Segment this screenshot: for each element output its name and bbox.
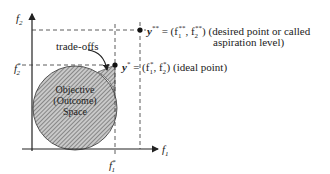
objective-space-label: Objective (Outcome) Space [52,84,98,117]
tradeoff-arrow [88,50,107,70]
desired-point [137,27,142,32]
ideal-point [112,62,117,67]
desired-point-label-line2: aspiration level) [213,36,284,48]
y-tick-label: f*2 [14,59,20,79]
x-tick-label: f*1 [109,156,115,174]
ideal-point-label: y* = (f1*, f2*) (ideal point) [122,58,227,78]
y-axis-label: f2 [16,12,23,29]
x-axis-label: f1 [162,143,169,160]
tradeoffs-label: trade-offs [56,40,99,52]
